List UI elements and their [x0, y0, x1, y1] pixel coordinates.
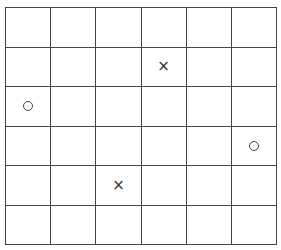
board-cell-r5-c3[interactable] [142, 206, 187, 246]
board-cell-r4-c0[interactable] [6, 166, 51, 206]
board-cell-r2-c3[interactable] [142, 87, 187, 127]
board-cell-r1-c5[interactable] [232, 48, 277, 88]
board-cell-r5-c1[interactable] [51, 206, 96, 246]
board-cell-r1-c2[interactable] [96, 48, 141, 88]
board-cell-r3-c1[interactable] [51, 127, 96, 167]
x-mark-icon: × [112, 178, 125, 193]
board-cell-r1-c1[interactable] [51, 48, 96, 88]
board-cell-r4-c3[interactable] [142, 166, 187, 206]
board-cell-r5-c5[interactable] [232, 206, 277, 246]
board-cell-r3-c3[interactable] [142, 127, 187, 167]
board-cell-r5-c0[interactable] [6, 206, 51, 246]
board-cell-r2-c2[interactable] [96, 87, 141, 127]
board-cell-r3-c0[interactable] [6, 127, 51, 167]
board-cell-r4-c2[interactable]: × [96, 166, 141, 206]
board-cell-r2-c0[interactable] [6, 87, 51, 127]
board-cell-r5-c4[interactable] [187, 206, 232, 246]
board-cell-r0-c1[interactable] [51, 8, 96, 48]
board-cell-r3-c2[interactable] [96, 127, 141, 167]
o-mark-icon [23, 101, 33, 111]
board-cell-r2-c5[interactable] [232, 87, 277, 127]
game-board: ×× [5, 7, 277, 245]
board-cell-r0-c3[interactable] [142, 8, 187, 48]
board-cell-r0-c0[interactable] [6, 8, 51, 48]
board-cell-r3-c4[interactable] [187, 127, 232, 167]
board-cell-r1-c4[interactable] [187, 48, 232, 88]
o-mark-icon [249, 141, 259, 151]
board-cell-r3-c5[interactable] [232, 127, 277, 167]
board-cell-r0-c2[interactable] [96, 8, 141, 48]
board-cell-r2-c4[interactable] [187, 87, 232, 127]
board-cell-r5-c2[interactable] [96, 206, 141, 246]
board-cell-r1-c3[interactable]: × [142, 48, 187, 88]
board-cell-r2-c1[interactable] [51, 87, 96, 127]
board-cell-r0-c4[interactable] [187, 8, 232, 48]
x-mark-icon: × [157, 59, 170, 74]
board-cell-r4-c4[interactable] [187, 166, 232, 206]
board-cell-r0-c5[interactable] [232, 8, 277, 48]
board-cell-r4-c1[interactable] [51, 166, 96, 206]
board-cell-r4-c5[interactable] [232, 166, 277, 206]
board-cell-r1-c0[interactable] [6, 48, 51, 88]
